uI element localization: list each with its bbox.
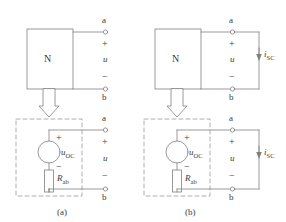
terminal-label-a-bot-panel-a: a (102, 114, 106, 123)
transform-arrow-a (39, 89, 59, 117)
source-minus-a: − (56, 162, 62, 172)
terminal-label-a-bot-panel-b: a (229, 114, 233, 123)
plus-sign-b-bot: + (229, 137, 235, 147)
source-plus-b: + (184, 133, 190, 143)
minus-sign-b-bot: − (229, 171, 235, 181)
terminal-b-bot-b (230, 87, 234, 91)
current-label-b-top: iSC (264, 50, 274, 61)
source-label-sub-a: OC (66, 152, 75, 159)
terminal-a-bot-panel-a (103, 128, 107, 132)
resistor-label-b: Rab (185, 174, 197, 185)
terminal-label-b-bot-b: b (229, 93, 234, 102)
source-minus-b: − (184, 162, 190, 172)
circuit-figure (0, 0, 286, 222)
caption-b: (b) (185, 208, 196, 217)
terminal-b-bot-panel-a (103, 187, 107, 191)
minus-sign-b-top: − (229, 72, 235, 82)
terminal-label-a-top-a: a (102, 16, 106, 25)
current-label-b-bot: iSC (264, 148, 274, 159)
voltage-source-a (38, 141, 60, 163)
plus-sign-b-top: + (229, 39, 235, 49)
terminal-a-bot-panel-b (230, 128, 234, 132)
current-label-sub-b-bot: SC (267, 152, 275, 159)
terminal-label-b-bot-panel-b: b (229, 193, 234, 202)
source-label-a: uOC (61, 148, 75, 159)
plus-sign-a-bot: + (102, 137, 108, 147)
transform-arrow-b (167, 89, 187, 117)
voltage-label-b-top: u (230, 55, 235, 64)
current-label-sub-b-top: SC (267, 54, 275, 61)
voltage-label-a-bot: u (103, 154, 108, 163)
terminal-b-bot-panel-b (230, 187, 234, 191)
minus-sign-a-top: − (102, 72, 108, 82)
terminal-a-top-a (103, 30, 107, 34)
source-label-b: uOC (189, 148, 203, 159)
resistor-label-sub-a: ab (63, 178, 69, 185)
source-plus-a: + (56, 133, 62, 143)
terminal-b-bot-a (103, 87, 107, 91)
terminal-label-b-bot-panel-a: b (102, 193, 107, 202)
source-label-sub-b: OC (194, 152, 203, 159)
resistor-label-a: Rab (57, 174, 69, 185)
terminal-a-top-b (230, 30, 234, 34)
n-box-label-a: N (44, 54, 51, 64)
voltage-source-b (166, 141, 188, 163)
plus-sign-a-top: + (102, 39, 108, 49)
n-box-label-b: N (172, 54, 179, 64)
caption-a: (a) (57, 208, 67, 217)
terminal-label-a-top-b: a (229, 16, 233, 25)
voltage-label-b-bot: u (230, 154, 235, 163)
terminal-label-b-bot-a: b (102, 93, 107, 102)
resistor-label-sub-b: ab (191, 178, 197, 185)
minus-sign-a-bot: − (102, 171, 108, 181)
voltage-label-a-top: u (103, 55, 108, 64)
